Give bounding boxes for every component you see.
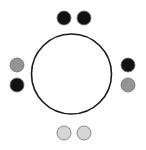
dot-bottom-left [57, 126, 71, 140]
diagram-canvas [0, 0, 146, 150]
dot-top-right [77, 11, 91, 25]
dot-left-upper [10, 58, 24, 72]
dot-right-lower [121, 78, 135, 92]
main-circle [32, 34, 112, 114]
dot-bottom-right [77, 126, 91, 140]
dot-left-lower [10, 78, 24, 92]
dot-top-left [57, 11, 71, 25]
dot-right-upper [121, 58, 135, 72]
circle-dot-diagram [0, 0, 146, 150]
